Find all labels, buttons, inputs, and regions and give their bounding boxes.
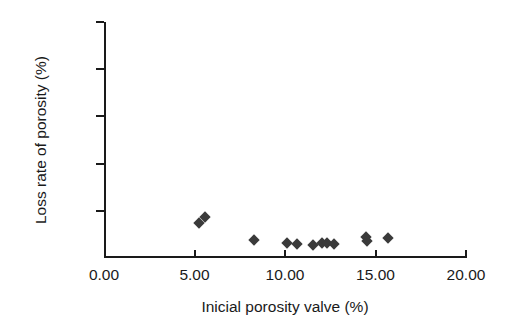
x-tick-mark: [194, 250, 196, 258]
y-tick-mark: [96, 210, 104, 212]
x-axis-title: Inicial porosity valve (%): [104, 298, 466, 316]
data-point-marker: [248, 235, 259, 246]
scatter-chart-figure: Loss rate of porosity (%) 020406080100 0…: [0, 0, 511, 333]
x-tick-label: 0.00: [89, 266, 119, 284]
data-point-marker: [383, 232, 394, 243]
data-point-marker: [291, 238, 302, 249]
y-tick-mark: [96, 21, 104, 23]
x-tick-label: 20.00: [447, 266, 486, 284]
x-tick-mark: [465, 250, 467, 258]
x-tick-label: 5.00: [179, 266, 209, 284]
x-tick-label: 10.00: [266, 266, 305, 284]
y-tick-mark: [96, 115, 104, 117]
y-axis-title: Loss rate of porosity (%): [28, 22, 54, 258]
x-tick-label: 15.00: [356, 266, 395, 284]
y-tick-mark: [96, 163, 104, 165]
plot-area: [104, 22, 466, 258]
x-tick-mark: [284, 250, 286, 258]
x-tick-mark: [375, 250, 377, 258]
y-tick-mark: [96, 68, 104, 70]
